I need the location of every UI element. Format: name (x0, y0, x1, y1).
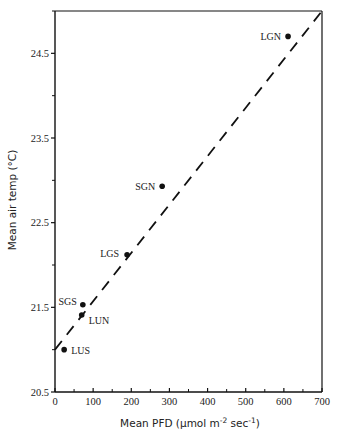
regression-line (55, 11, 322, 350)
y-tick-label: 24.5 (31, 48, 49, 59)
x-tick-label: 400 (200, 396, 216, 407)
x-ticks: 0100200300400500600700 (52, 388, 330, 407)
y-tick-label: 23.5 (31, 133, 49, 144)
data-point-lgn (285, 34, 291, 40)
point-label: LUN (89, 315, 110, 326)
data-point-lus (61, 347, 67, 353)
y-ticks: 20.521.522.523.524.5 (31, 11, 55, 398)
point-label: LGS (100, 248, 119, 259)
data-point-lgs (124, 252, 130, 258)
x-axis-title: Mean PFD (µmol m-2 sec-1) (120, 416, 260, 429)
x-tick-label: 300 (162, 396, 178, 407)
y-axis-title: Mean air temp (°C) (6, 150, 18, 251)
x-tick-label: 500 (238, 396, 254, 407)
dashed-fit-line (55, 11, 322, 350)
point-label: SGN (135, 181, 155, 192)
scatter-chart: 0100200300400500600700 20.521.522.523.52… (0, 0, 339, 437)
y-tick-label: 22.5 (31, 217, 49, 228)
y-tick-label: 20.5 (31, 387, 49, 398)
point-label: SGS (58, 296, 76, 307)
x-tick-label: 100 (85, 396, 101, 407)
plot-frame (55, 11, 322, 392)
point-label: LUS (71, 345, 90, 356)
data-point-sgs (80, 302, 86, 308)
y-tick-label: 21.5 (31, 302, 49, 313)
x-tick-label: 200 (123, 396, 139, 407)
point-label: LGN (260, 31, 281, 42)
x-tick-label: 0 (52, 396, 57, 407)
data-points: LUSLUNSGSLGSSGNLGN (58, 31, 290, 355)
x-tick-label: 700 (314, 396, 330, 407)
data-point-lun (79, 312, 85, 318)
x-tick-label: 600 (276, 396, 292, 407)
data-point-sgn (159, 183, 165, 189)
